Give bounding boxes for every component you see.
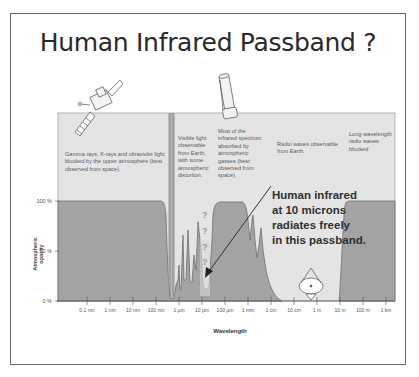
question-mark-2: ?	[202, 226, 208, 236]
x-axis-title: Wavelength	[200, 328, 260, 334]
callout-line-3: radiates freely	[272, 218, 382, 233]
space-telescope-icon	[219, 73, 238, 119]
question-mark-3: ?	[202, 242, 208, 252]
annotation-visible: Visible light observable from Earth, wit…	[178, 135, 214, 179]
annotation-long-radio: Long-wavelength radio waves blocked	[349, 131, 395, 153]
y-axis-title-line-2: opacity	[38, 224, 44, 284]
annotation-infrared: Most of the infrared spectrum absorbed b…	[218, 128, 262, 180]
visible-light-band	[168, 113, 175, 301]
callout-human-infrared: Human infrared at 10 microns radiates fr…	[272, 188, 382, 248]
annotation-gamma: Gamma rays, X-rays and ultraviolet light…	[65, 151, 165, 173]
y-tick-0: 0 %	[22, 298, 52, 304]
callout-line-1: Human infrared	[272, 188, 382, 203]
annotation-radio: Radio waves observable from Earth.	[277, 141, 339, 156]
y-tick-100: 100 %	[22, 198, 52, 204]
callout-line-4: in this passband.	[272, 233, 382, 248]
question-mark-1: ?	[202, 210, 208, 220]
question-mark-4: ?	[202, 257, 208, 267]
y-axis-title: Atmospheric opacity	[32, 224, 44, 284]
callout-line-2: at 10 microns	[272, 203, 382, 218]
x-tick-label: 1 km	[371, 307, 401, 313]
